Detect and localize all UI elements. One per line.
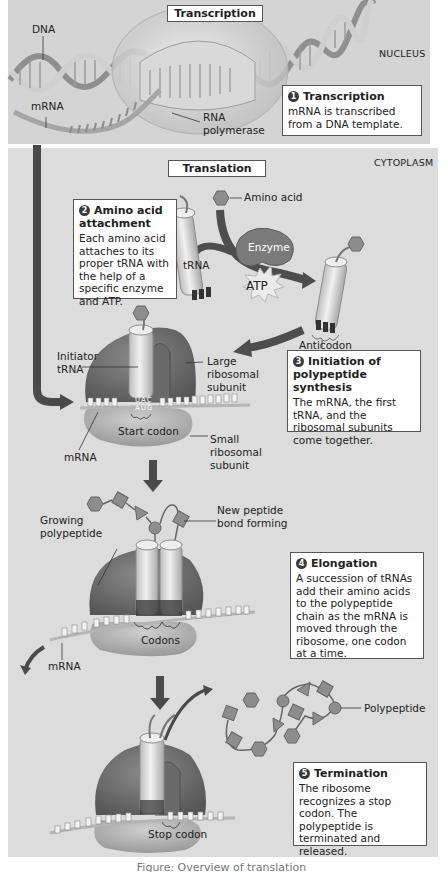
step-title: Transcription (303, 90, 385, 103)
step-number-badge: 1 (288, 91, 299, 102)
step-3-initiation: 3Initiation of polypeptide synthesis The… (287, 350, 421, 432)
label-trna: tRNA (183, 259, 209, 271)
label-atp: ATP (246, 279, 268, 293)
step-4-elongation: 4Elongation A succession of tRNAs add th… (290, 552, 424, 659)
step-body: mRNA is transcribed from a DNA template. (288, 105, 403, 130)
step-title: Termination (314, 767, 388, 780)
label-start-codon: Start codon (118, 425, 179, 437)
label-amino-acid: Amino acid (244, 191, 303, 203)
label-small-subunit-3: subunit (210, 459, 249, 471)
step-title: Amino acid attachment (79, 204, 163, 230)
label-rna-polymerase-1: RNA (203, 111, 225, 123)
label-mrna-nucleus: mRNA (31, 100, 64, 112)
step-body: The mRNA, the first tRNA, and the riboso… (293, 396, 396, 446)
label-new-peptide-bond-2: bond forming (217, 517, 287, 529)
label-growing-polypeptide-1: Growing (40, 514, 83, 526)
released-polypeptide (222, 681, 341, 756)
label-rna-polymerase-2: polymerase (203, 124, 265, 136)
label-large-subunit-3: subunit (207, 381, 246, 393)
label-small-subunit-2: ribosomal (210, 446, 262, 458)
label-large-subunit-2: ribosomal (207, 368, 259, 380)
ribosome-termination (50, 715, 235, 853)
step-title: Initiation of polypeptide synthesis (293, 355, 381, 394)
step-title: Elongation (311, 557, 377, 570)
translation-title: Translation (168, 160, 266, 177)
label-new-peptide-bond-1: New peptide (217, 504, 283, 516)
label-initiator-trna-1: Initiator (57, 350, 98, 362)
label-codons: Codons (141, 634, 180, 646)
figure-caption: Figure: Overview of translation (0, 862, 443, 872)
region-label-cytoplasm: Cytoplasm (374, 157, 433, 169)
step-number-badge: 4 (296, 558, 307, 569)
step-body: A succession of tRNAs add their amino ac… (296, 572, 412, 659)
region-label-nucleus: Nucleus (379, 48, 425, 60)
trna-charged (312, 237, 364, 347)
step-5-termination: 5Termination The ribosome recognizes a s… (293, 762, 427, 846)
step-body: Each amino acid attaches to its proper t… (79, 232, 169, 307)
step-number-badge: 3 (293, 356, 304, 367)
label-codon-letters: AUG (135, 404, 153, 412)
label-stop-codon: Stop codon (148, 828, 207, 840)
step-1-transcription: 1Transcription mRNA is transcribed from … (282, 85, 422, 136)
step-number-badge: 2 (79, 205, 90, 216)
label-small-subunit-1: Small (210, 433, 239, 445)
label-polypeptide: Polypeptide (364, 702, 425, 714)
step-number-badge: 5 (299, 768, 310, 779)
step-body: The ribosome recognizes a stop codon. Th… (299, 782, 391, 857)
label-mrna-elongation: mRNA (48, 660, 81, 672)
label-growing-polypeptide-2: polypeptide (40, 527, 102, 539)
step-2-amino-acid-attachment: 2Amino acid attachment Each amino acid a… (73, 199, 177, 299)
transcription-title: Transcription (167, 5, 263, 22)
label-mrna-initiation: mRNA (64, 451, 97, 463)
label-large-subunit-1: Large (207, 355, 237, 367)
label-enzyme: Enzyme (248, 241, 290, 253)
label-anticodon-letters: UAC (135, 396, 153, 404)
amino-acid-hexagon (213, 191, 229, 205)
label-dna: DNA (32, 23, 55, 35)
label-initiator-trna-2: tRNA (57, 363, 83, 375)
growing-chain (87, 492, 189, 545)
